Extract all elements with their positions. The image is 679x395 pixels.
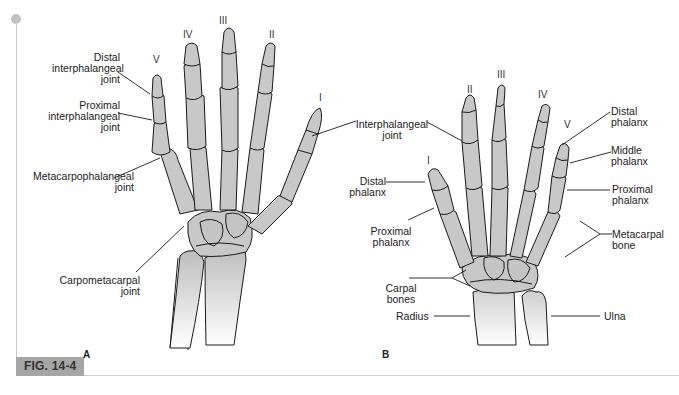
- label-metacarpophalangeal-joint: Metacarpophalangeal joint: [30, 171, 134, 193]
- label-proximal-phalanx: Proximal phalanx: [612, 184, 653, 206]
- finger-numeral-iii-a: III: [219, 15, 227, 26]
- label-metacarpal-bone: Metacarpal bone: [612, 229, 664, 251]
- finger-numeral-ii-b: II: [467, 84, 473, 95]
- label-radius: Radius: [396, 311, 429, 322]
- finger-numeral-iv-b: IV: [538, 89, 547, 100]
- label-proximal-phalanx-thumb: Proximal phalanx: [366, 226, 416, 248]
- finger-numeral-v-a: V: [153, 54, 160, 65]
- label-distal-phalanx: Distal phalanx: [611, 106, 648, 128]
- label-carpal-bones: Carpal bones: [380, 283, 422, 305]
- finger-numeral-iii-b: III: [497, 69, 505, 80]
- label-proximal-interphalangeal-joint: Proximal interphalangeal joint: [48, 100, 120, 133]
- panel-letter-b: B: [382, 349, 389, 360]
- label-distal-phalanx-thumb: Distal phalanx: [346, 176, 386, 198]
- label-distal-interphalangeal-joint: Distal interphalangeal joint: [52, 52, 120, 85]
- hand-b: [428, 85, 569, 345]
- panel-letter-a: A: [83, 349, 90, 360]
- finger-numeral-v-b: V: [564, 119, 571, 130]
- label-interphalangeal-joint: Interphalangeal joint: [352, 119, 432, 141]
- finger-numeral-iv-a: IV: [183, 29, 192, 40]
- label-ulna: Ulna: [604, 311, 626, 322]
- finger-numeral-i-a: I: [319, 92, 322, 103]
- label-middle-phalanx: Middle phalanx: [611, 145, 648, 167]
- finger-numeral-i-b: I: [427, 155, 430, 166]
- finger-numeral-ii-a: II: [269, 29, 275, 40]
- label-carpometacarpal-joint: Carpometacarpal joint: [56, 275, 140, 297]
- hand-a: [152, 28, 322, 350]
